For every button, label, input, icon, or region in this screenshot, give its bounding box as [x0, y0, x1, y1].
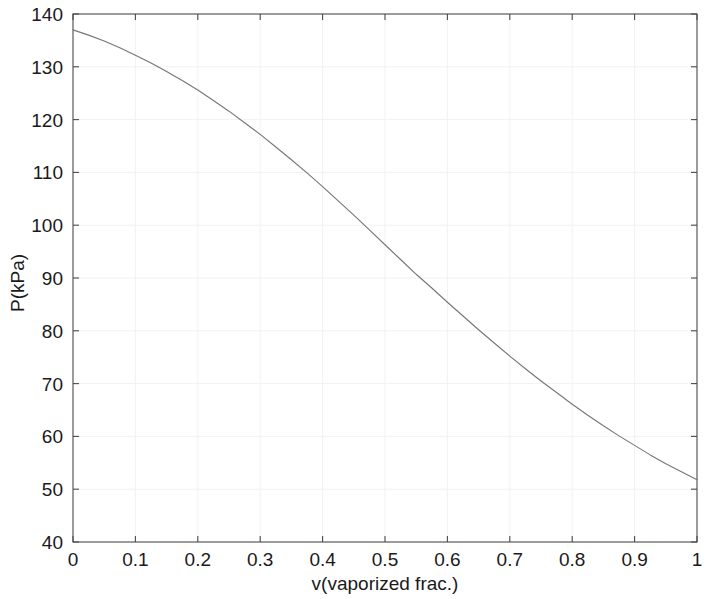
x-tick-label: 0.4 — [309, 549, 336, 570]
chart-figure: 00.10.20.30.40.50.60.70.80.91 4050607080… — [0, 0, 706, 599]
y-tick-label: 90 — [42, 268, 63, 289]
x-tick-labels: 00.10.20.30.40.50.60.70.80.91 — [68, 549, 703, 570]
x-tick-label: 0.1 — [122, 549, 148, 570]
y-tick-label: 70 — [42, 374, 63, 395]
y-tick-label: 140 — [31, 4, 63, 25]
y-tick-label: 50 — [42, 479, 63, 500]
x-tick-label: 0.6 — [434, 549, 460, 570]
y-tick-label: 120 — [31, 110, 63, 131]
x-tick-label: 0.5 — [372, 549, 398, 570]
plot-canvas: 00.10.20.30.40.50.60.70.80.91 4050607080… — [0, 0, 706, 599]
x-tick-label: 0.3 — [247, 549, 273, 570]
y-tick-label: 100 — [31, 215, 63, 236]
x-tick-label: 0 — [68, 549, 79, 570]
x-tick-label: 0.7 — [497, 549, 523, 570]
x-tick-label: 0.9 — [621, 549, 647, 570]
gridlines-group — [73, 14, 697, 542]
x-tick-label: 0.2 — [185, 549, 211, 570]
y-tick-labels: 405060708090100110120130140 — [31, 4, 63, 553]
y-axis-title: P(kPa) — [7, 254, 28, 312]
y-tick-label: 130 — [31, 57, 63, 78]
y-tick-label: 40 — [42, 532, 63, 553]
x-tick-label: 0.8 — [559, 549, 585, 570]
y-tick-label: 80 — [42, 321, 63, 342]
x-axis-title: v(vaporized frac.) — [312, 573, 459, 594]
x-tick-label: 1 — [692, 549, 703, 570]
y-tick-label: 110 — [33, 162, 63, 183]
y-tick-label: 60 — [42, 426, 63, 447]
